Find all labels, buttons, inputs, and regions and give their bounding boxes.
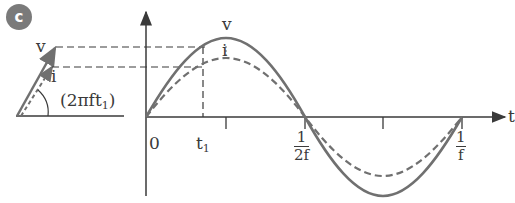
i-phasor	[21, 67, 52, 116]
phasor-v-label: v	[36, 38, 46, 55]
t-axis-label: t	[508, 108, 515, 125]
curve-v-label: v	[222, 16, 232, 33]
panel-badge: c	[6, 4, 32, 30]
t1-label: t1	[196, 135, 210, 154]
curve-i-label: i	[222, 42, 227, 59]
angle-label: (2πft1)	[60, 92, 115, 111]
ac-phasor-diagram: c v i (2πft1) v i t 0 t1 12f 1f	[0, 0, 515, 203]
angle-arc	[38, 90, 48, 116]
half-period-label: 12f	[294, 130, 309, 163]
origin-label: 0	[149, 135, 160, 152]
period-label: 1f	[456, 130, 466, 163]
v-phasor	[17, 48, 55, 116]
phasor-i-label: i	[51, 68, 56, 85]
